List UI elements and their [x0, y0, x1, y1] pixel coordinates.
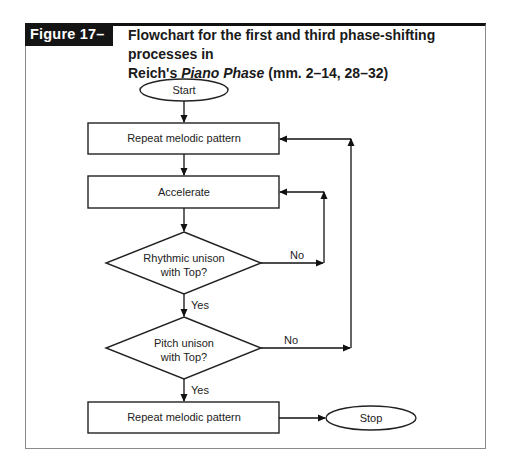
no-label-1: No: [290, 249, 304, 261]
decision2-line2: with Top?: [160, 351, 207, 363]
step2-label: Accelerate: [158, 186, 210, 198]
step1-label: Repeat melodic pattern: [127, 132, 241, 144]
yes-label-2: Yes: [191, 384, 209, 396]
flowchart: Start Repeat melodic pattern Accelerate …: [0, 0, 505, 469]
decision1-line2: with Top?: [160, 266, 207, 278]
start-label: Start: [172, 84, 195, 96]
no-label-2: No: [284, 334, 298, 346]
decision1-line1: Rhythmic unison: [143, 252, 224, 264]
stop-label: Stop: [360, 412, 383, 424]
decision2-line1: Pitch unison: [154, 337, 214, 349]
step3-label: Repeat melodic pattern: [127, 411, 241, 423]
yes-label-1: Yes: [191, 299, 209, 311]
